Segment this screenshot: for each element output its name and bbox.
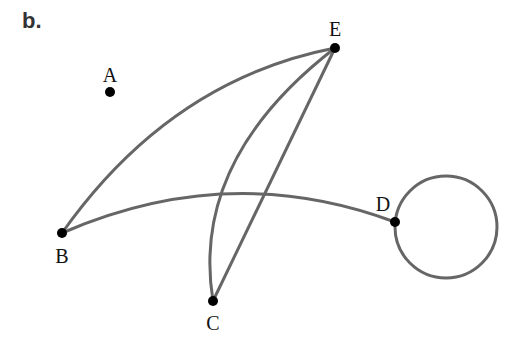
edges [62,48,497,301]
label-d: D [376,193,390,215]
label-e: E [329,18,341,40]
label-b: B [55,245,68,267]
graph-figure: b. A E B D C [0,0,521,350]
graph-svg: A E B D C [0,0,521,350]
edge-c-e-straight [213,48,335,301]
edge-b-d [62,194,395,233]
node-b [57,228,67,238]
node-c [208,296,218,306]
node-a [105,87,115,97]
labels: A E B D C [55,18,390,334]
node-d [390,217,400,227]
node-e [330,43,340,53]
label-c: C [206,312,219,334]
edge-d-loop [395,176,497,278]
label-a: A [103,64,118,86]
